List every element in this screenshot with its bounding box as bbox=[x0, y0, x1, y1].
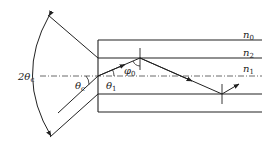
label-critical-angle: θc bbox=[75, 80, 85, 93]
theta-c-arc bbox=[86, 76, 89, 85]
leaking-ray bbox=[222, 84, 239, 94]
reflected-ray-arrow bbox=[140, 58, 192, 81]
label-refraction-angle: θ1 bbox=[106, 80, 117, 93]
cone-bottom-edge bbox=[50, 94, 98, 137]
fiber-diagram: 2θc θc θ1 φ0 n0 n2 n1 bbox=[0, 0, 279, 149]
cone-top-edge bbox=[48, 15, 98, 58]
label-acceptance-angle: 2θc bbox=[17, 71, 34, 84]
label-n1: n1 bbox=[243, 63, 254, 76]
theta-1-arc bbox=[113, 70, 115, 77]
refracted-ray-arrow bbox=[98, 65, 125, 77]
phi-0-arc bbox=[133, 61, 140, 66]
